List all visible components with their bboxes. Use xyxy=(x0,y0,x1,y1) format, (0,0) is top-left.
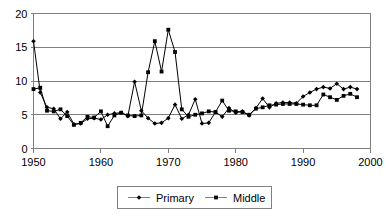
marker-primary-1976 xyxy=(206,121,211,126)
marker-middle-1950 xyxy=(32,87,36,91)
marker-middle-1980 xyxy=(234,109,238,113)
x-tick-label-2000: 2000 xyxy=(358,156,382,168)
marker-middle-1952 xyxy=(45,109,49,113)
marker-middle-1982 xyxy=(247,113,251,117)
marker-middle-1970 xyxy=(166,28,170,32)
chart-container: 05101520 195019601970198019902000 Primar… xyxy=(0,0,389,216)
marker-middle-1958 xyxy=(86,115,90,119)
marker-primary-1997 xyxy=(348,85,353,90)
marker-middle-1971 xyxy=(173,50,177,54)
marker-primary-1998 xyxy=(355,87,360,92)
marker-middle-1996 xyxy=(342,94,346,98)
marker-middle-1977 xyxy=(214,110,218,114)
marker-middle-1963 xyxy=(119,111,123,115)
marker-middle-1951 xyxy=(38,86,42,90)
marker-middle-1962 xyxy=(112,114,116,118)
line-chart: 05101520 195019601970198019902000 Primar… xyxy=(0,0,389,216)
marker-middle-1966 xyxy=(139,114,143,118)
marker-middle-1994 xyxy=(328,95,332,99)
x-tick-label-1950: 1950 xyxy=(21,156,45,168)
marker-primary-1975 xyxy=(200,121,205,126)
x-tick-label-1960: 1960 xyxy=(89,156,113,168)
marker-middle-1967 xyxy=(146,70,150,74)
y-tick-label-10: 10 xyxy=(15,75,27,87)
marker-middle-1968 xyxy=(153,39,157,43)
marker-primary-1991 xyxy=(308,90,313,95)
marker-middle-1991 xyxy=(308,103,312,107)
marker-middle-1959 xyxy=(92,116,96,120)
marker-middle-1969 xyxy=(160,70,164,74)
legend-label-middle: Middle xyxy=(233,192,265,204)
series-line-middle xyxy=(34,30,358,127)
marker-middle-1979 xyxy=(227,109,231,113)
series-line-primary xyxy=(34,41,358,124)
marker-middle-1989 xyxy=(294,102,298,106)
marker-primary-1993 xyxy=(321,85,326,90)
marker-middle-1998 xyxy=(355,95,359,99)
marker-middle-1955 xyxy=(65,114,69,118)
x-axis-ticks: 195019601970198019902000 xyxy=(21,149,382,168)
legend-marker-middle xyxy=(214,196,218,200)
marker-primary-1971 xyxy=(173,102,178,107)
marker-middle-1978 xyxy=(220,99,224,103)
marker-middle-1974 xyxy=(193,113,197,117)
marker-middle-1964 xyxy=(126,114,130,118)
marker-middle-1993 xyxy=(321,93,325,97)
marker-middle-1995 xyxy=(335,98,339,102)
marker-middle-1961 xyxy=(106,124,110,128)
marker-middle-1992 xyxy=(315,103,319,107)
marker-middle-1990 xyxy=(301,103,305,107)
y-axis-ticks: 05101520 xyxy=(15,8,33,155)
x-tick-label-1990: 1990 xyxy=(291,156,315,168)
x-tick-label-1970: 1970 xyxy=(156,156,180,168)
marker-middle-1965 xyxy=(133,114,137,118)
legend-label-primary: Primary xyxy=(156,192,194,204)
marker-middle-1997 xyxy=(348,92,352,96)
marker-middle-1988 xyxy=(288,102,292,106)
marker-middle-1957 xyxy=(79,121,83,125)
marker-middle-1976 xyxy=(207,109,211,113)
marker-middle-1987 xyxy=(281,102,285,106)
marker-middle-1956 xyxy=(72,123,76,127)
marker-primary-1965 xyxy=(132,79,137,84)
y-tick-label-20: 20 xyxy=(15,8,27,20)
marker-middle-1953 xyxy=(52,109,56,113)
marker-middle-1960 xyxy=(99,109,103,113)
marker-middle-1984 xyxy=(261,105,265,109)
marker-primary-1950 xyxy=(31,39,36,44)
x-tick-label-1980: 1980 xyxy=(223,156,247,168)
marker-primary-1974 xyxy=(193,97,198,102)
marker-middle-1954 xyxy=(59,107,63,111)
marker-primary-1992 xyxy=(314,87,319,92)
y-tick-label-5: 5 xyxy=(21,109,27,121)
y-tick-label-15: 15 xyxy=(15,41,27,53)
marker-middle-1983 xyxy=(254,107,258,111)
gridlines xyxy=(34,14,371,149)
marker-primary-1972 xyxy=(179,117,184,122)
marker-middle-1981 xyxy=(241,110,245,114)
marker-middle-1972 xyxy=(180,107,184,111)
marker-middle-1986 xyxy=(274,103,278,107)
chart-legend: PrimaryMiddle xyxy=(118,187,272,209)
series-middle xyxy=(32,28,359,128)
y-tick-label-0: 0 xyxy=(21,143,27,155)
data-series xyxy=(31,28,359,128)
marker-middle-1973 xyxy=(187,115,191,119)
marker-middle-1985 xyxy=(268,103,272,107)
marker-middle-1975 xyxy=(200,112,204,116)
